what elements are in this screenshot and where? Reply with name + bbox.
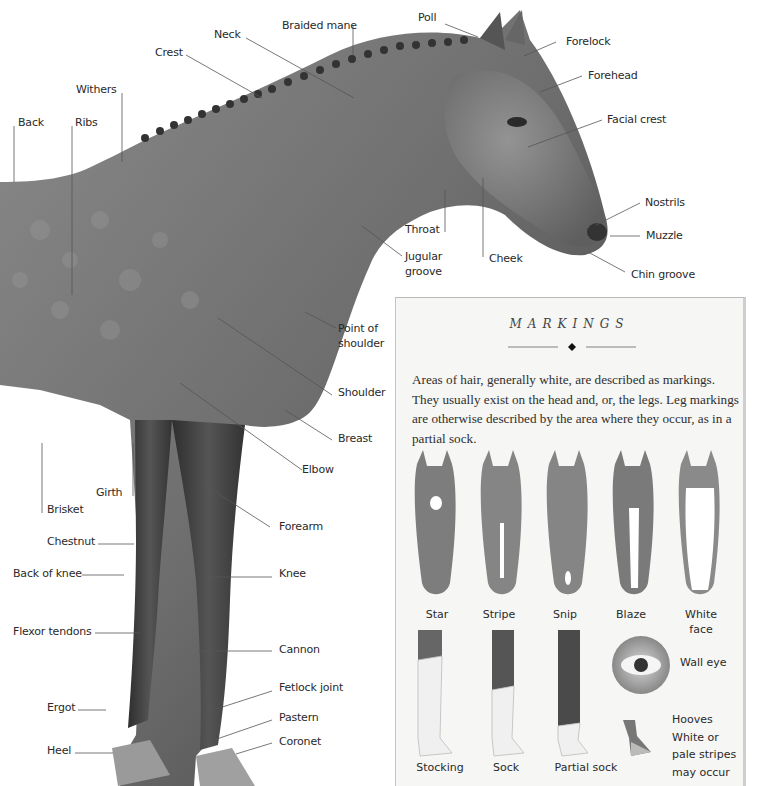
label-pastern: Pastern (279, 710, 319, 725)
label-sock: Sock (486, 760, 526, 775)
label-ergot: Ergot (47, 700, 75, 715)
label-braided-mane: Braided mane (282, 18, 357, 33)
label-flexor-tendons: Flexor tendons (13, 624, 92, 639)
markings-panel: MARKINGS Areas of hair, generally white,… (395, 297, 746, 786)
label-chestnut: Chestnut (47, 534, 95, 549)
label-brisket: Brisket (47, 502, 84, 517)
label-stocking: Stocking (410, 760, 470, 775)
label-elbow: Elbow (302, 462, 334, 477)
label-breast: Breast (338, 431, 372, 446)
label-point-of-shoulder: Point of shoulder (338, 321, 398, 351)
label-forehead: Forehead (588, 68, 638, 83)
label-cannon: Cannon (279, 642, 320, 657)
label-muzzle: Muzzle (646, 228, 683, 243)
markings-title: MARKINGS (396, 317, 743, 331)
label-snip: Snip (545, 607, 585, 622)
label-facial-crest: Facial crest (607, 112, 666, 127)
leg-markings-illustrations (396, 628, 616, 763)
label-coronet: Coronet (279, 734, 321, 749)
label-partial-sock: Partial sock (546, 760, 626, 775)
label-stripe: Stripe (479, 607, 519, 622)
label-star: Star (417, 607, 457, 622)
label-fetlock-joint: Fetlock joint (279, 680, 343, 695)
hoof-illustration (621, 718, 661, 758)
label-throat: Throat (405, 222, 440, 237)
label-forearm: Forearm (279, 519, 323, 534)
label-knee: Knee (279, 566, 306, 581)
head-star (415, 450, 456, 594)
diamond-rule-ornament (508, 342, 636, 352)
label-withers: Withers (76, 82, 117, 97)
label-back-of-knee: Back of knee (13, 566, 82, 581)
label-blaze: Blaze (611, 607, 651, 622)
label-cheek: Cheek (489, 251, 523, 266)
leg-stocking (418, 630, 452, 756)
label-girth: Girth (96, 485, 122, 500)
markings-description: Areas of hair, generally white, are desc… (412, 370, 744, 448)
label-wall-eye: Wall eye (680, 655, 727, 670)
label-ribs: Ribs (75, 115, 98, 130)
head-stripe (481, 450, 522, 594)
wall-eye-illustration (611, 635, 671, 695)
label-forelock: Forelock (566, 34, 610, 49)
head-snip (547, 450, 588, 594)
label-crest: Crest (155, 45, 183, 60)
label-neck: Neck (214, 27, 241, 42)
head-white-face (679, 450, 720, 594)
label-chin-groove: Chin groove (631, 267, 695, 282)
head-markings-illustrations (396, 448, 747, 598)
label-nostrils: Nostrils (645, 195, 685, 210)
label-jugular-groove: Jugular groove (405, 249, 455, 279)
label-white-face: White face (681, 607, 721, 637)
label-hooves: Hooves White or pale stripes may occur (672, 711, 738, 781)
label-poll: Poll (418, 10, 436, 25)
label-heel: Heel (47, 743, 71, 758)
leg-sock (492, 630, 524, 756)
label-shoulder: Shoulder (338, 385, 385, 400)
head-blaze (613, 450, 654, 594)
label-back: Back (18, 115, 44, 130)
leg-partial-sock (558, 630, 588, 756)
